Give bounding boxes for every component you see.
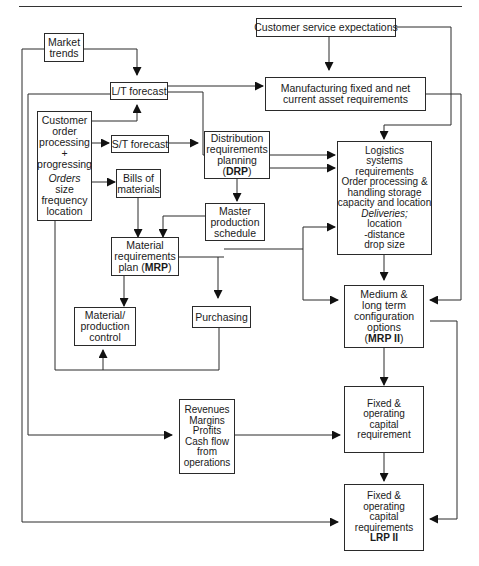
node-master-production-schedule: Master production schedule [205, 203, 265, 241]
node-mrp: Material requirements plan (MRP) [111, 237, 179, 276]
node-revenues: Revenues Margins Profits Cash flow from … [179, 399, 235, 474]
edge-market-lt [83, 49, 137, 75]
node-lrp2: Fixed & operating capital requirements L… [344, 484, 424, 551]
node-fixed-capital-requirement: Fixed & operating capital requirement [344, 386, 424, 453]
node-purchasing: Purchasing [192, 306, 251, 328]
node-manufacturing: Manufacturing fixed and net current asse… [265, 77, 426, 111]
node-customer-service: Customer service expectations [256, 18, 396, 37]
node-logistics: Logistics systems requirements Order pro… [337, 141, 432, 255]
edge-mrp2-lrp2 [430, 321, 457, 519]
node-market-trends: Market trends [44, 33, 84, 62]
node-material-production-control: Material/ production control [74, 307, 136, 346]
node-mrp2: Medium & long term configuration options… [344, 285, 424, 348]
node-customer-order: Customer order processing + progressing … [37, 111, 92, 221]
node-bills-of-materials: Bills of materials [116, 169, 161, 198]
node-drp: Distribution requirements planning (DRP) [204, 131, 270, 179]
edge-mrp-mrp2 [303, 249, 338, 300]
edge-order-lt [92, 105, 137, 121]
edge-mps-mrp [163, 216, 205, 237]
edge-mrp-purchasing-2 [178, 257, 218, 298]
node-lt-forecast: L/T forecast [110, 82, 168, 100]
node-st-forecast: S/T forecast [111, 135, 169, 153]
